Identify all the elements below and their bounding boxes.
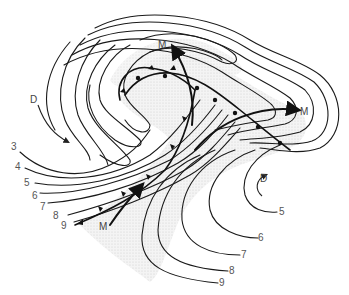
low-label-left: D	[30, 94, 37, 105]
isobar-label-right: 7	[241, 249, 247, 260]
isobar-label-left: 6	[32, 190, 38, 201]
isobar-label-right: 8	[229, 265, 235, 276]
low-arrow-left	[38, 105, 68, 142]
isobar-label-right: 6	[258, 232, 264, 243]
isobar-label-left: 8	[53, 210, 59, 221]
shaded-sector	[80, 38, 306, 282]
isobar-label-left: 3	[11, 141, 17, 152]
cyclone-isobar-diagram: D D M M M 3 4 5 6 7 8 9 5 6 7 8 9	[0, 0, 349, 295]
isobar-label-left: 5	[24, 177, 30, 188]
isobar-label-left: 9	[61, 220, 67, 231]
stream-label-bottom: M	[99, 221, 107, 232]
isobar-label-left: 4	[15, 161, 21, 172]
isobar-label-right: 9	[219, 277, 225, 288]
stream-label-right: M	[300, 106, 308, 117]
stream-label-top: M	[158, 39, 166, 50]
isobar-label-left: 7	[40, 201, 46, 212]
low-label-right: D	[260, 173, 267, 184]
isobar-label-right: 5	[279, 206, 285, 217]
